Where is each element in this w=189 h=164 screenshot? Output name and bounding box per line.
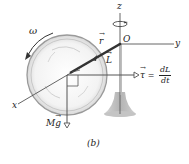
- pivot-point: [119, 43, 122, 46]
- equals-sign: =: [148, 71, 155, 80]
- r-vector-label: r: [99, 37, 103, 46]
- origin-label: O: [123, 35, 130, 44]
- r-vector-text: r: [99, 37, 103, 46]
- mass-text: M: [46, 118, 55, 128]
- y-axis-label: y: [175, 39, 180, 48]
- fraction-denominator: dt: [159, 76, 171, 85]
- x-axis-label: x: [12, 101, 17, 110]
- gyroscope-figure: z O y x ω r L τ = dL dt Mg (b): [0, 0, 189, 164]
- dL-dt-fraction: dL dt: [159, 64, 171, 85]
- torque-label: τ =: [140, 71, 155, 80]
- dL-text: dL: [160, 65, 170, 74]
- omega-label: ω: [29, 26, 37, 36]
- tau-text: τ: [140, 71, 145, 80]
- z-axis-label: z: [117, 2, 122, 11]
- gravity-text: g: [55, 119, 61, 128]
- weight-label: Mg: [46, 119, 61, 128]
- L-vector-label: L: [106, 56, 112, 65]
- fraction-numerator: dL: [159, 64, 171, 76]
- figure-caption: (b): [87, 139, 100, 148]
- L-vector-text: L: [106, 56, 112, 65]
